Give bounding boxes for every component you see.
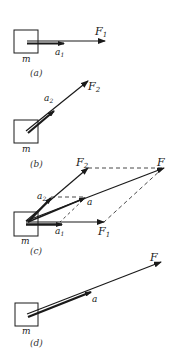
f-label: F [149,251,158,264]
panel-c: F2 F F1 a a2 a1 m (c) [14,156,165,256]
force-f-arrow [26,168,164,221]
a-label: a [92,294,97,304]
mass-label: m [22,144,31,154]
panel-d: F a m (d) [15,251,161,348]
a2-label: a2 [44,93,53,104]
mass-label: m [22,326,31,336]
f2-label: F2 [87,80,101,94]
physics-diagram: F1 a1 m (a) F2 a2 m (b) F2 F F1 a a2 a [0,0,179,357]
f2-label: F2 [75,156,89,170]
accel-a2-arrow [28,198,51,222]
panel-a: F1 a1 m (a) [14,25,107,78]
mass-label: m [21,236,30,246]
caption-c: (c) [30,246,43,256]
panel-b: F2 a2 m (b) [14,80,101,169]
a1-label: a1 [55,47,64,58]
f1-label: F1 [94,25,107,39]
caption-a: (a) [30,68,43,78]
force-f-arrow [27,262,161,314]
force-f2-arrow [26,81,88,131]
accel-a2-arrow [28,111,54,133]
mass-box [14,120,38,143]
accel-a-arrow [28,292,91,317]
a-label: a [87,197,92,207]
dashed-guide [104,168,163,222]
mass-label: m [22,54,31,64]
caption-d: (d) [30,338,43,348]
f1-label: F1 [97,225,110,239]
f-label: F [156,156,165,169]
a1-label: a1 [55,226,64,237]
caption-b: (b) [30,159,43,169]
accel-a-arrow [28,198,85,222]
a2-label: a2 [37,191,46,202]
